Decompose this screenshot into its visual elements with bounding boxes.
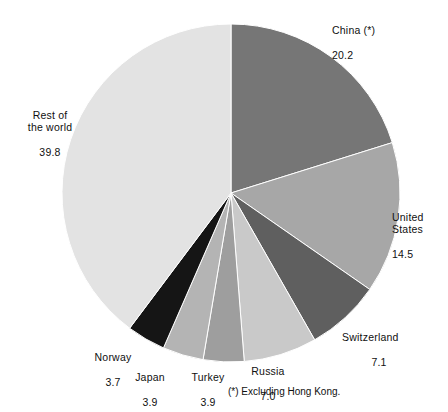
pie-label-switzerland-name: Switzerland <box>342 331 442 344</box>
pie-label-norway-value: 3.7 <box>82 376 144 389</box>
pie-label-turkey: Turkey 3.9 <box>180 358 236 412</box>
pie-label-united-states-name: United States <box>392 211 444 236</box>
pie-label-turkey-name: Turkey <box>180 371 236 384</box>
pie-label-china-value: 20.2 <box>332 49 436 62</box>
pie-label-norway-name: Norway <box>82 351 144 364</box>
pie-label-united-states: United States 14.5 <box>392 198 444 273</box>
pie-slice-group <box>62 24 400 362</box>
pie-label-china-name: China (*) <box>332 24 436 37</box>
pie-label-rest-of-the-world-value: 39.8 <box>6 146 94 159</box>
pie-label-rest-of-the-world: Rest of the world 39.8 <box>6 96 94 171</box>
pie-chart: China (*) 20.2 United States 14.5 Switze… <box>0 0 448 412</box>
chart-footnote: (*) Excluding Hong Kong. <box>228 386 444 398</box>
pie-label-norway: Norway 3.7 <box>82 338 144 401</box>
pie-label-switzerland: Switzerland 7.1 <box>342 318 442 381</box>
pie-label-united-states-value: 14.5 <box>392 248 444 261</box>
pie-label-russia: Russia 7.0 <box>238 352 298 412</box>
pie-label-rest-of-the-world-name: Rest of the world <box>6 109 94 134</box>
pie-label-russia-name: Russia <box>238 365 298 378</box>
pie-label-switzerland-value: 7.1 <box>342 356 416 369</box>
pie-label-china: China (*) 20.2 <box>332 11 436 74</box>
